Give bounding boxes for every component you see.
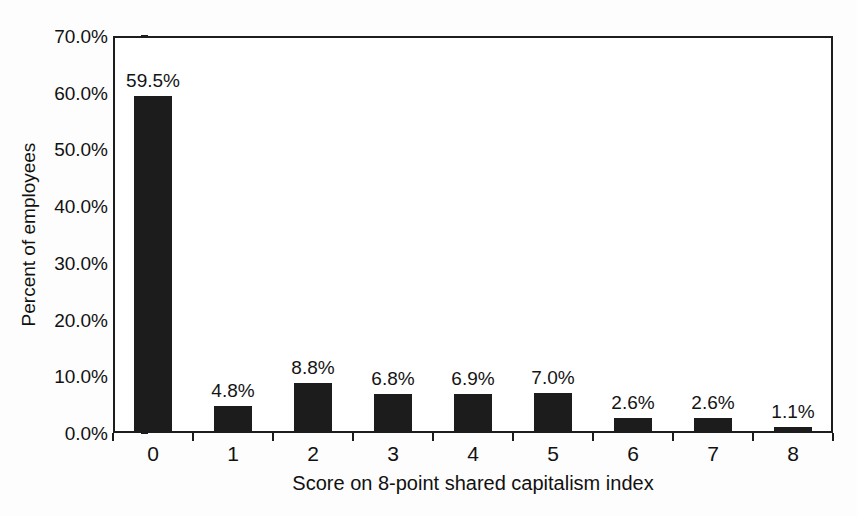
bar-value-label: 6.9% <box>451 369 494 388</box>
bar-slot: 6.8% <box>353 36 433 433</box>
x-axis-tick-mark <box>112 433 114 441</box>
bar-value-label: 59.5% <box>126 71 180 90</box>
bar[interactable] <box>374 394 412 433</box>
bar-slot: 8.8% <box>273 36 353 433</box>
x-axis-tick-mark <box>672 433 674 441</box>
x-axis-tick-mark <box>192 433 194 441</box>
x-axis-tick-mark <box>832 433 834 441</box>
x-axis-tick-label: 8 <box>787 441 799 467</box>
bar-slot: 1.1% <box>753 36 833 433</box>
y-axis-tick-label: 40.0% <box>34 197 108 216</box>
y-axis-tick-label: 30.0% <box>34 254 108 273</box>
x-axis-tick-mark <box>272 433 274 441</box>
bar-slot: 59.5% <box>113 36 193 433</box>
bar-slot: 7.0% <box>513 36 593 433</box>
y-axis-tick-label: 0.0% <box>34 424 108 443</box>
x-axis-tick-label: 0 <box>147 441 159 467</box>
bar-value-label: 6.8% <box>371 369 414 388</box>
bar[interactable] <box>534 393 572 433</box>
bar[interactable] <box>454 394 492 433</box>
x-axis-tick-label: 3 <box>387 441 399 467</box>
x-axis-tick-mark <box>432 433 434 441</box>
y-axis-tick-label: 50.0% <box>34 140 108 159</box>
y-axis-tick-label: 70.0% <box>34 27 108 46</box>
bar-value-label: 1.1% <box>771 402 814 421</box>
bar-slot: 2.6% <box>673 36 753 433</box>
x-axis-tick-label: 5 <box>547 441 559 467</box>
bar[interactable] <box>214 406 252 433</box>
x-axis-tick-label: 4 <box>467 441 479 467</box>
x-axis-tick-mark <box>352 433 354 441</box>
bar[interactable] <box>294 383 332 433</box>
bar-value-label: 2.6% <box>611 393 654 412</box>
bar[interactable] <box>694 418 732 433</box>
bar-value-label: 8.8% <box>291 358 334 377</box>
x-axis-tick-mark <box>592 433 594 441</box>
x-axis-tick-label: 7 <box>707 441 719 467</box>
y-axis-tick-labels: 0.0%10.0%20.0%30.0%40.0%50.0%60.0%70.0% <box>34 0 108 516</box>
bar[interactable] <box>134 96 172 433</box>
bar[interactable] <box>614 418 652 433</box>
chart-figure: Percent of employees 0.0%10.0%20.0%30.0%… <box>0 0 857 516</box>
x-axis-tick-label: 1 <box>227 441 239 467</box>
x-axis-tick-labels: 012345678 <box>113 441 833 469</box>
x-axis-tick-mark <box>512 433 514 441</box>
x-axis-tick-mark <box>752 433 754 441</box>
bar-value-label: 2.6% <box>691 393 734 412</box>
x-axis-title: Score on 8-point shared capitalism index <box>113 470 833 496</box>
bars-layer: 59.5%4.8%8.8%6.8%6.9%7.0%2.6%2.6%1.1% <box>113 36 833 433</box>
x-axis-tick-label: 6 <box>627 441 639 467</box>
bar-value-label: 4.8% <box>211 381 254 400</box>
bar-slot: 4.8% <box>193 36 273 433</box>
bar-value-label: 7.0% <box>531 368 574 387</box>
y-axis-tick-label: 20.0% <box>34 311 108 330</box>
x-axis-tick-label: 2 <box>307 441 319 467</box>
y-axis-tick-label: 10.0% <box>34 367 108 386</box>
y-axis-tick-label: 60.0% <box>34 84 108 103</box>
bar-slot: 2.6% <box>593 36 673 433</box>
bar-slot: 6.9% <box>433 36 513 433</box>
